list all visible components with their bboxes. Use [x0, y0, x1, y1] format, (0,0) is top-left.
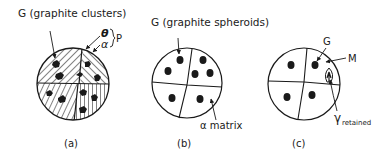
gamma-label: γ — [334, 111, 341, 125]
caption-b: (b) — [177, 138, 191, 149]
pearlite-label: P — [116, 33, 122, 44]
panel-b: G (graphite spheroids) α matrix (b) — [151, 16, 269, 149]
caption-a: (a) — [64, 138, 78, 149]
microstructure-diagram: G (graphite clusters) θ α P (a) G (graph… — [0, 0, 381, 159]
graphite-spheroids-label: G (graphite spheroids) — [151, 16, 269, 28]
graphite-label: G — [323, 36, 331, 47]
graphite-spheroids — [284, 61, 319, 101]
graphite-spheroids — [165, 56, 214, 103]
panel-a: G (graphite clusters) θ α P (a) — [18, 7, 126, 149]
alpha-matrix-label: α matrix — [200, 120, 242, 131]
retained-subscript: retained — [342, 119, 371, 127]
panel-c: G M γ retained (c) — [268, 36, 371, 149]
alpha-label: α — [101, 38, 109, 51]
caption-c: (c) — [292, 138, 305, 149]
graphite-clusters-label: G (graphite clusters) — [18, 7, 126, 19]
martensite-label: M — [348, 53, 357, 64]
pearlite-brace — [110, 29, 115, 47]
